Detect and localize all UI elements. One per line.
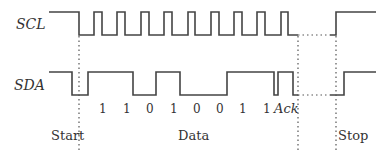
bit-label: 0 <box>216 102 224 116</box>
sda-waveform <box>49 72 376 95</box>
i2c-timing-diagram: SCL SDA 1 1 0 1 0 0 1 1 Ack Start Data S… <box>0 0 391 153</box>
start-label: Start <box>51 128 85 143</box>
data-label: Data <box>178 128 209 143</box>
stop-label: Stop <box>338 128 368 143</box>
bit-label: 1 <box>170 102 178 116</box>
scl-label: SCL <box>16 16 46 32</box>
data-bits: 1 1 0 1 0 0 1 1 Ack <box>99 101 299 116</box>
scl-waveform <box>49 12 376 35</box>
bit-label: 1 <box>263 102 271 116</box>
bit-label: 0 <box>193 102 201 116</box>
bit-label: 1 <box>99 102 107 116</box>
bit-label: 1 <box>123 102 131 116</box>
bit-label: 1 <box>239 102 247 116</box>
bit-label: 0 <box>146 102 154 116</box>
sda-label: SDA <box>14 77 45 93</box>
ack-label: Ack <box>273 101 299 116</box>
